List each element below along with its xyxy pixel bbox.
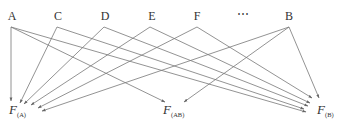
source-node-C: C: [54, 9, 62, 23]
source-ellipsis: ⋯: [237, 7, 249, 21]
target-FA-sub: (A): [17, 111, 26, 119]
source-node-B: B: [285, 9, 293, 23]
target-node-FAB: F (AB): [162, 102, 184, 119]
target-node-FA: F (A): [8, 102, 26, 119]
edge-B-to-FA: [42, 27, 289, 111]
edge-F-to-FB: [197, 27, 312, 98]
source-node-E: E: [148, 9, 155, 23]
dependency-diagram: A C D E F ⋯ B F (A) F (AB) F (B): [0, 0, 340, 125]
source-node-A: A: [8, 9, 17, 23]
edge-B-to-FB: [289, 27, 319, 98]
target-node-FB: F (B): [316, 102, 334, 119]
edge-C-to-FB: [57, 27, 304, 109]
source-node-D: D: [101, 9, 110, 23]
source-node-F: F: [194, 9, 201, 23]
edge-D-to-FB: [104, 27, 308, 106]
edge-E-to-FA: [31, 27, 150, 105]
target-FAB-sub: (AB): [171, 111, 184, 119]
edges: [11, 27, 319, 112]
target-FB-sub: (B): [325, 111, 334, 119]
edge-D-to-FA: [24, 27, 104, 104]
